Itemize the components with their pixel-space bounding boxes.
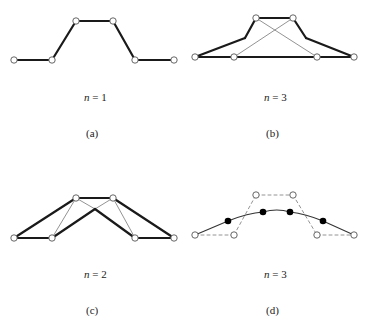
control-point-circle [49, 235, 55, 241]
control-point-circle [171, 235, 177, 241]
control-point-circle [11, 57, 17, 63]
control-point-circle [192, 54, 198, 60]
control-point-circle [73, 18, 79, 24]
control-point-circle [314, 54, 320, 60]
caption-c: (c) [86, 304, 99, 316]
n-label-d: n = 3 [264, 268, 287, 280]
panel-a [11, 18, 177, 63]
thin-segment [234, 18, 293, 57]
caption-d: (d) [266, 304, 279, 316]
control-point-circle [192, 232, 198, 238]
caption-a: (a) [86, 127, 99, 140]
n-label-b: n = 3 [264, 91, 287, 103]
curve-point-dot [225, 218, 232, 225]
bold-segment [95, 209, 135, 238]
control-point-circle [253, 192, 259, 198]
control-point-circle [132, 235, 138, 241]
n-label-a: n = 1 [84, 91, 107, 103]
control-point-circle [351, 232, 357, 238]
figure-canvas: n = 1 (a) n = 3 (b) n = 2 (c) n = 3 (d) [0, 0, 371, 316]
curve-point-dot [320, 218, 327, 225]
control-point-circle [351, 54, 357, 60]
bold-segment [14, 198, 76, 238]
control-point-circle [171, 57, 177, 63]
panel-b [192, 15, 357, 60]
bold-segment [52, 21, 76, 60]
control-point-circle [132, 57, 138, 63]
panel-c [11, 195, 177, 241]
panel-d [192, 192, 357, 238]
thin-segment [52, 198, 76, 238]
control-point-circle [11, 235, 17, 241]
control-point-circle [73, 195, 79, 201]
caption-b: (b) [266, 127, 279, 140]
thin-segment [256, 18, 317, 57]
control-point-circle [110, 18, 116, 24]
control-point-circle [290, 192, 296, 198]
control-point-circle [314, 232, 320, 238]
control-point-circle [253, 15, 259, 21]
n-label-c: n = 2 [84, 268, 107, 280]
bold-segment [113, 21, 135, 60]
control-point-circle [110, 195, 116, 201]
control-point-circle [49, 57, 55, 63]
control-point-circle [290, 15, 296, 21]
bold-segment [113, 198, 174, 238]
subdivision-curve [195, 210, 354, 235]
control-point-circle [231, 232, 237, 238]
curve-point-dot [260, 209, 267, 216]
bold-segment [52, 209, 95, 238]
bold-segment [195, 38, 245, 57]
control-point-circle [231, 54, 237, 60]
curve-point-dot [287, 209, 294, 216]
